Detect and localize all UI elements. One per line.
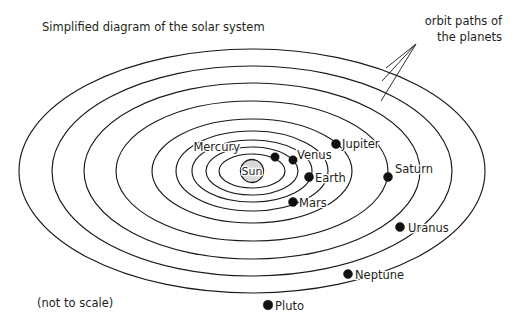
orbit-annotation-line1: orbit paths of bbox=[425, 14, 503, 28]
solar-system-canvas: Sun Mercury Venus Earth Mars Jupiter Sat… bbox=[0, 0, 515, 329]
planet-label-jupiter: Jupiter bbox=[341, 137, 380, 151]
figure-text-group: Simplified diagram of the solar system (… bbox=[37, 14, 503, 310]
planet-dot-jupiter bbox=[332, 140, 341, 149]
planet-label-pluto: Pluto bbox=[275, 299, 304, 313]
solar-system-diagram: Sun Mercury Venus Earth Mars Jupiter Sat… bbox=[0, 0, 515, 329]
sun-label: Sun bbox=[242, 165, 263, 178]
planet-label-neptune: Neptune bbox=[355, 268, 404, 282]
scale-note: (not to scale) bbox=[37, 296, 113, 310]
planet-dot-earth bbox=[305, 173, 314, 182]
leader-line-2 bbox=[382, 44, 416, 81]
planet-dot-uranus bbox=[396, 223, 405, 232]
planet-dot-mercury bbox=[271, 153, 279, 161]
planet-dot-mars bbox=[289, 198, 298, 207]
sun-group: Sun bbox=[241, 160, 264, 183]
planet-label-earth: Earth bbox=[315, 171, 346, 185]
diagram-title: Simplified diagram of the solar system bbox=[42, 20, 265, 34]
planet-label-venus: Venus bbox=[297, 148, 332, 162]
planet-dot-neptune bbox=[344, 270, 353, 279]
planet-labels-group: Mercury Venus Earth Mars Jupiter Saturn … bbox=[193, 137, 448, 313]
planet-dot-venus bbox=[289, 156, 297, 164]
planet-dots-group bbox=[263, 140, 404, 310]
planet-label-uranus: Uranus bbox=[408, 221, 449, 235]
leader-line-3 bbox=[381, 44, 416, 101]
planet-label-mercury: Mercury bbox=[193, 140, 240, 154]
planet-label-saturn: Saturn bbox=[395, 162, 433, 176]
annotation-leader-lines bbox=[381, 44, 416, 101]
planet-dot-pluto bbox=[263, 300, 273, 310]
planet-label-mars: Mars bbox=[299, 196, 327, 210]
orbit-annotation-line2: the planets bbox=[437, 30, 502, 44]
leader-line-1 bbox=[386, 44, 416, 68]
planet-dot-saturn bbox=[384, 173, 393, 182]
